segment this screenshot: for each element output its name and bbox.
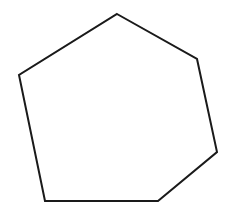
drawing-canvas: [0, 0, 238, 216]
shape-canvas-svg: [0, 0, 238, 216]
